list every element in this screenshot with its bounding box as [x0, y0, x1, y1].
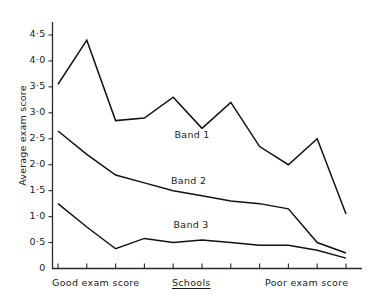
chart-plot-area — [0, 0, 370, 303]
y-axis-tick-label: 1·0 — [20, 210, 46, 221]
axis-lines — [53, 22, 363, 269]
y-axis-tick-label: 2·5 — [20, 132, 46, 143]
series-label-band-3: Band 3 — [172, 219, 209, 230]
chart-figure: Average exam score 00·51·01·52·02·53·03·… — [0, 0, 370, 303]
y-axis-tick-label: 3·5 — [20, 80, 46, 91]
x-axis-left-label: Good exam score — [52, 277, 139, 288]
y-axis-tick-label: 2·0 — [20, 158, 46, 169]
y-axis-tick-label: 0·5 — [20, 236, 46, 247]
series-line-1 — [58, 40, 346, 214]
y-axis-tick-label: 4·0 — [20, 54, 46, 65]
series-line-2 — [58, 131, 346, 253]
y-axis-tick-label: 4·5 — [20, 28, 46, 39]
x-axis-right-label: Poor exam score — [265, 277, 348, 288]
series-label-band-2: Band 2 — [170, 175, 207, 186]
series-label-band-1: Band 1 — [173, 129, 210, 140]
axes-group — [49, 22, 363, 269]
y-axis-tick-label: 3·0 — [20, 106, 46, 117]
series-line-3 — [58, 204, 346, 258]
y-axis-tick-label: 0 — [20, 262, 46, 273]
x-axis-center-label: Schools — [172, 277, 211, 288]
y-axis-tick-label: 1·5 — [20, 184, 46, 195]
